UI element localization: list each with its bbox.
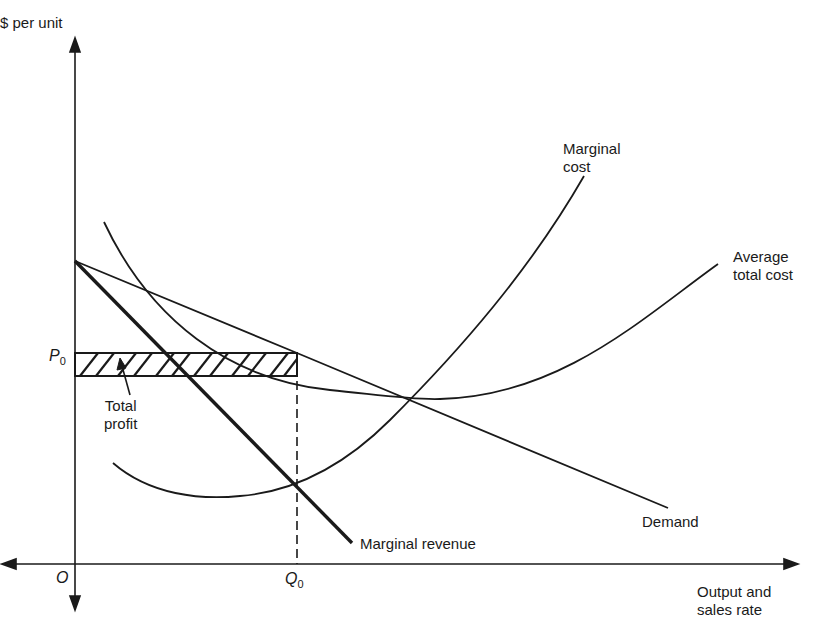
marginal-revenue-label: Marginal revenue — [360, 535, 476, 553]
marginal-cost-label-line2: cost — [563, 158, 621, 176]
total-profit-label-line1: Total — [104, 397, 137, 415]
marginal-cost-curve — [113, 176, 584, 497]
quantity-q0-label: Q0 — [285, 570, 304, 593]
average-total-cost-label: Average total cost — [733, 248, 793, 284]
x-axis-label-line1: Output and — [697, 583, 771, 601]
x-axis-label: Output and sales rate — [697, 583, 771, 619]
y-axis — [70, 38, 80, 610]
y-axis-label: $ per unit — [0, 14, 63, 32]
atc-label-line2: total cost — [733, 266, 793, 284]
marginal-cost-label: Marginal cost — [563, 140, 621, 176]
price-p0-label: P0 — [49, 347, 66, 370]
demand-curve — [75, 261, 668, 508]
total-profit-label-line2: profit — [104, 415, 137, 433]
price-label-subscript: 0 — [60, 355, 66, 367]
demand-label: Demand — [642, 513, 699, 531]
marginal-cost-label-line1: Marginal — [563, 140, 621, 158]
quantity-label-subscript: 0 — [297, 578, 303, 590]
origin-label: O — [56, 569, 68, 587]
quantity-label-letter: Q — [285, 570, 297, 587]
total-profit-label: Total profit — [104, 397, 137, 433]
x-axis-label-line2: sales rate — [697, 601, 771, 619]
x-axis — [2, 559, 798, 569]
atc-label-line1: Average — [733, 248, 793, 266]
price-label-letter: P — [49, 347, 60, 364]
